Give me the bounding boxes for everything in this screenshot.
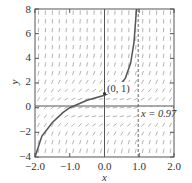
y-tick-labels: 8 6 4 2 0 −2 −4	[19, 3, 31, 162]
y-tick-label: −2	[19, 125, 31, 137]
y-axis-label: y	[8, 79, 20, 85]
y-tick-label: 8	[26, 3, 32, 15]
x-tick-label: −1.0	[60, 160, 80, 172]
x-axis-label: x	[101, 171, 107, 183]
asymptote-label: x = 0.97	[140, 108, 177, 119]
y-tick-label: 4	[26, 51, 32, 63]
y-tick-label: 2	[26, 75, 32, 87]
x-tick-label: 2.0	[167, 160, 181, 172]
x-tick-label: 1.0	[132, 160, 146, 172]
point-label: (0, 1)	[107, 83, 130, 95]
chart-canvas: (0, 1) x = 0.97 8 6 4 2 0 −2 −4 −2.0 −1.…	[0, 0, 192, 183]
x-tick-label: −2.0	[25, 160, 45, 172]
y-tick-label: 0	[26, 100, 32, 112]
y-tick-label: 6	[26, 27, 32, 39]
point-marker	[103, 92, 106, 95]
